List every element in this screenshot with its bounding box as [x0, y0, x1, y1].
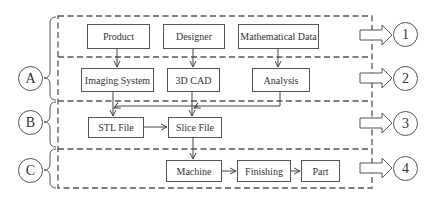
node-designer: Designer	[163, 24, 225, 49]
node-product: Product	[87, 24, 150, 49]
node-part: Part	[301, 160, 340, 182]
brace-b	[44, 102, 56, 147]
node-analysis: Analysis	[252, 68, 310, 92]
stage-label-c: C	[18, 158, 43, 183]
row-label-4: 4	[393, 156, 418, 181]
output-arrow-3	[360, 113, 392, 133]
output-arrow-2	[360, 68, 392, 88]
node-finishing: Finishing	[237, 160, 291, 182]
row-label-1: 1	[393, 22, 418, 47]
output-arrow-1	[360, 25, 392, 45]
node-imaging-system: Imaging System	[81, 68, 154, 92]
brace-a	[44, 17, 56, 100]
row-label-3: 3	[393, 111, 418, 136]
node-mathematical-data: Mathematical Data	[238, 24, 319, 49]
stage-label-a: A	[18, 66, 43, 91]
row-label-2: 2	[393, 66, 418, 91]
node-3d-cad: 3D CAD	[167, 68, 220, 92]
brace-c	[44, 149, 56, 188]
node-stl-file: STL File	[88, 117, 144, 138]
output-arrow-4	[360, 158, 392, 178]
stage-label-b: B	[18, 110, 43, 135]
node-slice-file: Slice File	[168, 117, 222, 138]
node-machine: Machine	[166, 160, 222, 182]
